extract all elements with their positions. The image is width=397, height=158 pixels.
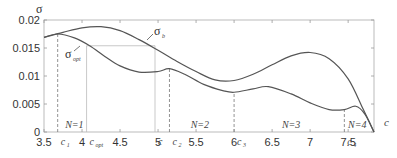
x-tick-label: 4.5: [112, 136, 127, 148]
marker-label: c: [158, 136, 163, 147]
marker-label: c: [347, 136, 352, 147]
region-label: N=1: [64, 119, 83, 130]
region-label: N=3: [281, 119, 300, 130]
sigma-b-subscript: b: [162, 33, 165, 39]
sigma-b-label: σ: [154, 24, 161, 38]
x-tick-label: 7: [307, 136, 313, 148]
x-tick-label: 6.5: [264, 136, 279, 148]
marker-subscript: 2: [178, 142, 181, 148]
y-tick-label: 0.015: [12, 42, 40, 54]
y-tick-labels: 00.0050.010.0150.02: [12, 14, 40, 138]
chart: 3.544.555.566.577.5 00.0050.010.0150.02 …: [0, 0, 397, 158]
marker-subscript: 1: [67, 142, 70, 148]
marker-label: c: [172, 136, 177, 147]
x-tick-label: 5.5: [188, 136, 203, 148]
annotations: N=1N=2N=3N=4σbσopt: [64, 24, 366, 130]
curves: [44, 27, 374, 132]
curve-opt: [44, 34, 374, 132]
x-tick-label: 4: [79, 136, 85, 148]
marker-subscript: 3: [242, 142, 246, 148]
y-tick-label: 0: [34, 126, 40, 138]
x-axis-label: c: [384, 116, 389, 128]
x-tick-labels: 3.544.555.566.577.5: [36, 136, 355, 148]
sigma-opt-subscript: opt: [73, 56, 81, 62]
plot-frame: [44, 20, 374, 132]
axis-ticks: [44, 20, 374, 132]
marker-label: c: [237, 136, 242, 147]
vertical-markers: c1coptcc2c3c4: [58, 34, 357, 148]
marker-subscript: 4: [353, 142, 356, 148]
region-label: N=2: [190, 119, 209, 130]
marker-label: c: [61, 136, 66, 147]
region-label: N=4: [347, 119, 366, 130]
y-axis-label: σ: [36, 2, 43, 16]
y-tick-label: 0.005: [12, 98, 40, 110]
marker-label: c: [90, 136, 95, 147]
marker-subscript: opt: [96, 142, 104, 148]
y-tick-label: 0.01: [19, 70, 40, 82]
curve-b: [44, 27, 374, 132]
sigma-opt-label: σ: [65, 47, 72, 61]
